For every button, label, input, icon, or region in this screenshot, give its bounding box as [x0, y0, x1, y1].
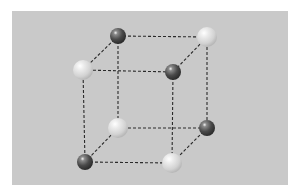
light-sphere-front-bottom-right [162, 153, 182, 173]
lattice-edge [118, 36, 207, 37]
lattice-edges [83, 36, 207, 163]
light-sphere-back-top-right [197, 27, 217, 47]
lattice-edge [172, 72, 173, 163]
dark-sphere-back-bottom-right [199, 120, 215, 136]
lattice-edge [83, 70, 173, 72]
crystal-lattice-diagram [0, 0, 295, 192]
dark-sphere-front-top-right [165, 64, 181, 80]
light-sphere-front-top-left [73, 60, 93, 80]
dark-sphere-back-top-left [110, 28, 126, 44]
lattice-edge [83, 70, 85, 162]
dark-sphere-front-bottom-left [77, 154, 93, 170]
light-sphere-back-bottom-left [108, 118, 128, 138]
lattice-edge [85, 162, 172, 163]
